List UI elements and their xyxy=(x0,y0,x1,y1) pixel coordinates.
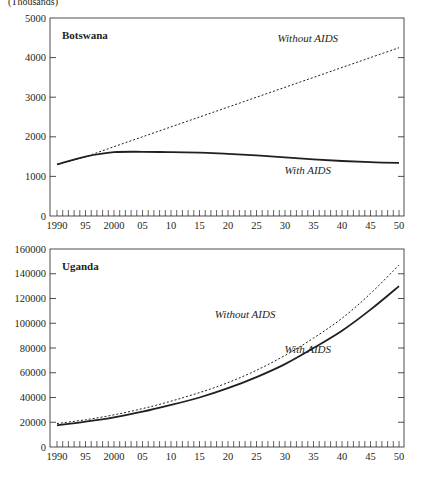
x-tick-label: 1990 xyxy=(47,451,68,462)
x-tick-label: 30 xyxy=(280,220,291,231)
y-tick-label: 60000 xyxy=(20,367,46,378)
with-aids-line xyxy=(57,286,399,425)
y-tick-label: 80000 xyxy=(20,343,46,354)
x-tick-label: 20 xyxy=(223,220,234,231)
x-tick-label: 1990 xyxy=(47,220,68,231)
x-tick-label: 10 xyxy=(166,451,177,462)
x-tick-label: 2000 xyxy=(104,220,125,231)
y-tick-label: 5000 xyxy=(25,13,46,24)
plot-frame xyxy=(50,18,404,216)
x-tick-label: 15 xyxy=(194,451,205,462)
without-aids-line xyxy=(57,48,399,165)
x-tick-label: 95 xyxy=(80,451,91,462)
x-tick-label: 30 xyxy=(280,451,291,462)
y-tick-label: 120000 xyxy=(15,293,47,304)
x-tick-label: 2000 xyxy=(104,451,125,462)
uganda-chart: 0200004000060000800001000001200001400001… xyxy=(15,244,405,463)
series-annotation: With AIDS xyxy=(285,343,332,355)
botswana-chart: 0100020003000400050001990952000051015202… xyxy=(25,13,404,232)
y-tick-label: 4000 xyxy=(25,52,46,63)
x-tick-label: 50 xyxy=(394,451,405,462)
x-tick-label: 50 xyxy=(394,220,405,231)
x-tick-label: 35 xyxy=(308,220,319,231)
y-tick-label: 2000 xyxy=(25,131,46,142)
y-tick-label: 140000 xyxy=(15,268,47,279)
x-tick-label: 15 xyxy=(194,220,205,231)
series-annotation: Without AIDS xyxy=(277,32,338,44)
panel-title: Uganda xyxy=(62,260,99,272)
x-tick-label: 25 xyxy=(251,451,262,462)
x-tick-label: 40 xyxy=(337,451,348,462)
y-tick-label: 20000 xyxy=(20,417,46,428)
y-tick-label: 3000 xyxy=(25,92,46,103)
x-tick-label: 95 xyxy=(80,220,91,231)
x-tick-label: 20 xyxy=(223,451,234,462)
y-tick-label: 160000 xyxy=(15,244,47,255)
y-tick-label: 0 xyxy=(41,211,46,222)
x-tick-label: 05 xyxy=(137,220,148,231)
unit-label: (Thousands) xyxy=(8,0,58,8)
chart-figure: (Thousands) 0100020003000400050001990952… xyxy=(0,0,423,478)
x-tick-label: 05 xyxy=(137,451,148,462)
series-annotation: Without AIDS xyxy=(215,308,276,320)
without-aids-line xyxy=(57,265,399,423)
x-tick-label: 45 xyxy=(365,220,376,231)
y-tick-label: 100000 xyxy=(15,318,47,329)
y-tick-label: 0 xyxy=(41,442,46,453)
panel-title: Botswana xyxy=(62,29,108,41)
x-tick-label: 40 xyxy=(337,220,348,231)
x-tick-label: 25 xyxy=(251,220,262,231)
y-tick-label: 1000 xyxy=(25,171,46,182)
plot-frame xyxy=(50,249,404,447)
series-annotation: With AIDS xyxy=(285,164,332,176)
with-aids-line xyxy=(57,152,399,165)
y-tick-label: 40000 xyxy=(20,392,46,403)
x-tick-label: 35 xyxy=(308,451,319,462)
x-tick-label: 45 xyxy=(365,451,376,462)
x-tick-label: 10 xyxy=(166,220,177,231)
